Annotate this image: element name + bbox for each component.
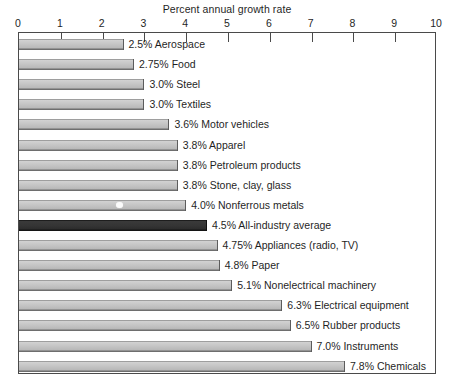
bar-label: 3.8% Stone, clay, glass	[183, 177, 291, 193]
bar-label: 6.3% Electrical equipment	[287, 297, 408, 313]
bar-aerospace	[19, 39, 124, 50]
bar-label: 3.0% Textiles	[149, 96, 211, 112]
bar-label: 2.5% Aerospace	[129, 36, 205, 52]
bar-food	[19, 59, 134, 70]
bar-label: 7.8% Chemicals	[350, 358, 426, 374]
bar-row: 4.75% Appliances (radio, TV)	[19, 235, 437, 256]
bar-row: 3.0% Textiles	[19, 94, 437, 115]
bar-steel	[19, 79, 144, 90]
bar-label: 3.8% Petroleum products	[183, 157, 301, 173]
bar-label: 7.0% Instruments	[317, 338, 399, 354]
chart-axis-title: Percent annual growth rate	[18, 3, 436, 15]
x-tick-label-8: 8	[349, 17, 355, 29]
x-tick-label-9: 9	[391, 17, 397, 29]
bar-label: 4.75% Appliances (radio, TV)	[223, 237, 359, 253]
bar-row: 7.0% Instruments	[19, 336, 437, 357]
plot-area: 2.5% Aerospace2.75% Food3.0% Steel3.0% T…	[18, 32, 436, 374]
x-tick-label-4: 4	[182, 17, 188, 29]
bar-row: 2.5% Aerospace	[19, 34, 437, 55]
x-tick-label-5: 5	[224, 17, 230, 29]
bar-appliances-radio-tv	[19, 240, 218, 251]
bar-nonferrous-metals	[19, 200, 186, 211]
bar-textiles	[19, 99, 144, 110]
bar-row: 3.8% Apparel	[19, 135, 437, 156]
bar-row: 3.6% Motor vehicles	[19, 114, 437, 135]
bar-stone-clay-glass	[19, 180, 178, 191]
x-tick-label-0: 0	[15, 17, 21, 29]
x-tick-label-3: 3	[140, 17, 146, 29]
x-axis-tick-labels: 012345678910	[0, 17, 452, 30]
x-tick-label-7: 7	[308, 17, 314, 29]
bar-apparel	[19, 140, 178, 151]
bar-label: 5.1% Nonelectrical machinery	[237, 277, 376, 293]
bar-label: 3.0% Steel	[149, 76, 200, 92]
bar-chemicals	[19, 361, 345, 372]
bar-all-industry-average	[19, 220, 207, 231]
bar-row: 5.1% Nonelectrical machinery	[19, 275, 437, 296]
bar-chart-figure: Percent annual growth rate 012345678910 …	[0, 0, 452, 387]
bar-row: 3.8% Petroleum products	[19, 155, 437, 176]
x-tick-label-2: 2	[99, 17, 105, 29]
bar-row: 2.75% Food	[19, 54, 437, 75]
bar-petroleum-products	[19, 160, 178, 171]
x-tick-label-10: 10	[430, 17, 442, 29]
bar-label: 6.5% Rubber products	[296, 317, 400, 333]
bar-row: 3.8% Stone, clay, glass	[19, 175, 437, 196]
bar-motor-vehicles	[19, 119, 169, 130]
bar-series: 2.5% Aerospace2.75% Food3.0% Steel3.0% T…	[19, 33, 437, 375]
bar-label: 3.8% Apparel	[183, 137, 245, 153]
bar-label: 4.5% All-industry average	[212, 217, 331, 233]
bar-rubber-products	[19, 320, 291, 331]
bar-row: 6.5% Rubber products	[19, 315, 437, 336]
scan-artifact-dot	[116, 202, 123, 208]
x-tick-label-6: 6	[266, 17, 272, 29]
bar-row: 4.0% Nonferrous metals	[19, 195, 437, 216]
bar-label: 4.0% Nonferrous metals	[191, 197, 304, 213]
bar-label: 2.75% Food	[139, 56, 196, 72]
x-tick-label-1: 1	[57, 17, 63, 29]
bar-instruments	[19, 341, 312, 352]
bar-paper	[19, 260, 220, 271]
bar-label: 3.6% Motor vehicles	[174, 116, 269, 132]
bar-electrical-equipment	[19, 300, 282, 311]
bar-label: 4.8% Paper	[225, 257, 280, 273]
bar-row: 4.8% Paper	[19, 255, 437, 276]
bar-row: 4.5% All-industry average	[19, 215, 437, 236]
bar-nonelectrical-machinery	[19, 280, 232, 291]
bar-row: 6.3% Electrical equipment	[19, 295, 437, 316]
bar-row: 7.8% Chemicals	[19, 356, 437, 377]
bar-row: 3.0% Steel	[19, 74, 437, 95]
